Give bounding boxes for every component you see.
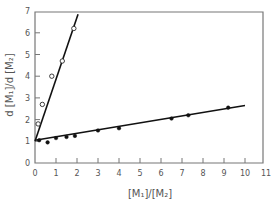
- data-point-filled-circles: [187, 113, 191, 117]
- y-tick-label: 5: [25, 51, 30, 60]
- data-point-filled-circles: [73, 134, 77, 138]
- data-point-open-circles: [40, 102, 44, 106]
- axis-ticks: 0123456789101101234567: [25, 7, 271, 178]
- y-tick-label: 2: [25, 116, 30, 125]
- y-tick-label: 1: [25, 137, 30, 146]
- y-tick-label: 0: [25, 159, 30, 168]
- data-point-open-circles: [72, 26, 76, 30]
- plot-frame: [35, 12, 263, 163]
- x-tick-label: 7: [179, 169, 184, 178]
- y-tick-label: 6: [25, 29, 30, 38]
- x-tick-label: 11: [261, 169, 271, 178]
- y-tick-label: 3: [25, 94, 30, 103]
- chart: 0123456789101101234567 [M₁]/[M₂] d [M₁]/…: [0, 0, 277, 205]
- data-points: [36, 26, 230, 144]
- axes-box: [35, 12, 263, 163]
- y-tick-label: 4: [25, 72, 30, 81]
- data-point-filled-circles: [96, 129, 100, 133]
- x-tick-label: 8: [200, 169, 205, 178]
- data-point-open-circles: [60, 59, 64, 63]
- x-tick-label: 10: [240, 169, 250, 178]
- x-tick-label: 9: [221, 169, 226, 178]
- x-tick-label: 3: [95, 169, 100, 178]
- data-point-filled-circles: [170, 117, 174, 121]
- x-tick-label: 1: [53, 169, 58, 178]
- x-tick-label: 4: [116, 169, 121, 178]
- data-point-filled-circles: [46, 141, 50, 145]
- data-point-open-circles: [36, 122, 40, 126]
- x-tick-label: 2: [74, 169, 79, 178]
- y-axis-label: d [M₁]/d [M₂]: [4, 53, 15, 116]
- x-tick-label: 6: [158, 169, 163, 178]
- data-point-filled-circles: [37, 138, 41, 142]
- x-tick-label: 0: [32, 169, 37, 178]
- x-tick-label: 5: [137, 169, 142, 178]
- fit-lines: [35, 14, 245, 141]
- data-point-filled-circles: [226, 106, 230, 110]
- data-point-filled-circles: [65, 135, 69, 139]
- fit-line-open-circles: [35, 14, 78, 141]
- data-point-open-circles: [50, 74, 54, 78]
- y-tick-label: 7: [25, 7, 30, 16]
- data-point-filled-circles: [54, 136, 58, 140]
- data-point-filled-circles: [117, 126, 121, 130]
- x-axis-label: [M₁]/[M₂]: [128, 188, 172, 199]
